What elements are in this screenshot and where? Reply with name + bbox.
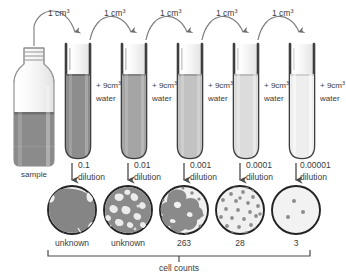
dilution-diagram: sample 1 cm3 1 cm3 1 cm3 1 cm3 1 cm3 + 9… [0, 0, 346, 273]
tube-highlight-2 [125, 48, 127, 70]
colony-growth-2 [105, 187, 151, 233]
bracket-label: cell counts [159, 263, 199, 273]
transfer-label-5: 1 cm3 [272, 8, 293, 18]
transfer-label-3: 1 cm3 [160, 8, 181, 18]
transfer-label-4: 1 cm3 [216, 8, 237, 18]
plate-count-5: 3 [294, 238, 299, 248]
dilution-word-4: dilution [246, 172, 273, 182]
diluent-label-4: + 9cm3 [264, 80, 289, 90]
tube-highlight-1 [69, 48, 71, 70]
diluent-label-3: + 9cm3 [208, 80, 233, 90]
dilution-word-5: dilution [300, 172, 327, 182]
plate-count-2: unknown [111, 238, 145, 248]
water-label-5: water [319, 94, 340, 103]
plate-count-4: 28 [235, 238, 245, 248]
diluent-label-5: + 9cm3 [320, 80, 345, 90]
petri-dish-1: unknown [48, 186, 96, 248]
water-label-2: water [151, 94, 172, 103]
tube-highlight-4 [237, 48, 239, 70]
water-label-4: water [263, 94, 284, 103]
dilution-factor-1: 0.1 [78, 160, 90, 170]
diluent-label-1: + 9cm3 [96, 80, 121, 90]
tube-highlight-5 [293, 48, 295, 70]
transfer-label-2: 1 cm3 [104, 8, 125, 18]
dilution-factor-3: 0.001 [190, 160, 212, 170]
dilution-factor-4: 0.0001 [246, 160, 272, 170]
tube-highlight-3 [181, 48, 183, 70]
plate-count-1: unknown [55, 238, 89, 248]
transfer-label-1: 1 cm3 [48, 8, 69, 18]
dilution-word-1: dilution [78, 172, 105, 182]
water-label-1: water [95, 94, 116, 103]
dilution-word-2: dilution [134, 172, 161, 182]
diluent-label-2: + 9cm3 [152, 80, 177, 90]
dilution-factor-2: 0.01 [134, 160, 151, 170]
sample-label: sample [21, 170, 47, 179]
water-label-3: water [207, 94, 228, 103]
plate-count-3: 263 [177, 238, 191, 248]
dilution-factor-5: 0.00001 [300, 160, 331, 170]
petri-dish-2: unknown [104, 186, 152, 248]
dilution-word-3: dilution [190, 172, 217, 182]
